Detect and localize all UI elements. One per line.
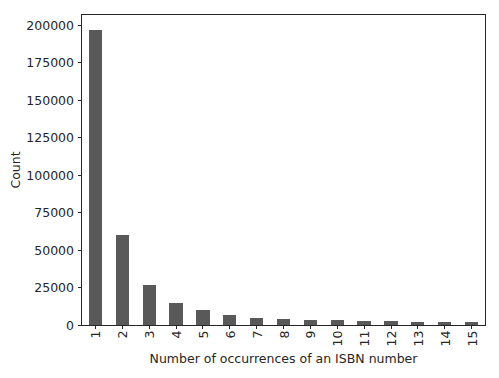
x-tick-label: 7 xyxy=(249,331,264,349)
bar-2 xyxy=(116,235,129,325)
x-tick-label: 10 xyxy=(330,331,345,349)
x-tick-mark xyxy=(256,325,257,329)
y-tick-label: 125000 xyxy=(0,130,74,145)
x-tick-label: 4 xyxy=(169,331,184,349)
y-tick-label: 25000 xyxy=(0,280,74,295)
y-tick-mark xyxy=(78,100,82,101)
y-tick-mark xyxy=(78,287,82,288)
x-tick-label: 12 xyxy=(384,331,399,349)
y-tick-label: 175000 xyxy=(0,55,74,70)
x-tick-mark xyxy=(337,325,338,329)
y-tick-mark xyxy=(78,325,82,326)
bar-4 xyxy=(169,303,182,325)
x-tick-mark xyxy=(149,325,150,329)
x-tick-mark xyxy=(229,325,230,329)
x-tick-label: 3 xyxy=(142,331,157,349)
x-tick-mark xyxy=(417,325,418,329)
x-axis-label: Number of occurrences of an ISBN number xyxy=(82,351,485,366)
x-tick-label: 5 xyxy=(195,331,210,349)
x-tick-label: 14 xyxy=(437,331,452,349)
y-tick-label: 0 xyxy=(0,318,74,333)
x-tick-label: 2 xyxy=(115,331,130,349)
y-tick-mark xyxy=(78,62,82,63)
x-tick-mark xyxy=(471,325,472,329)
bar-1 xyxy=(89,30,102,325)
plot-area xyxy=(81,14,486,326)
x-tick-mark xyxy=(122,325,123,329)
y-tick-label: 75000 xyxy=(0,205,74,220)
y-tick-mark xyxy=(78,250,82,251)
x-tick-label: 11 xyxy=(357,331,372,349)
x-tick-mark xyxy=(176,325,177,329)
y-axis-label: Count xyxy=(8,151,23,188)
y-tick-mark xyxy=(78,212,82,213)
y-tick-label: 200000 xyxy=(0,18,74,33)
y-tick-mark xyxy=(78,25,82,26)
bar-3 xyxy=(143,285,156,325)
y-tick-mark xyxy=(78,137,82,138)
y-tick-label: 150000 xyxy=(0,93,74,108)
x-tick-mark xyxy=(391,325,392,329)
x-tick-mark xyxy=(310,325,311,329)
x-tick-mark xyxy=(364,325,365,329)
x-tick-label: 6 xyxy=(222,331,237,349)
x-tick-mark xyxy=(202,325,203,329)
x-tick-label: 1 xyxy=(88,331,103,349)
x-tick-label: 15 xyxy=(464,331,479,349)
bar-5 xyxy=(196,310,209,325)
x-tick-label: 9 xyxy=(303,331,318,349)
x-tick-label: 8 xyxy=(276,331,291,349)
bar-7 xyxy=(250,318,263,326)
y-tick-mark xyxy=(78,175,82,176)
x-tick-label: 13 xyxy=(410,331,425,349)
x-tick-mark xyxy=(444,325,445,329)
x-tick-mark xyxy=(283,325,284,329)
figure: 0250005000075000100000125000150000175000… xyxy=(0,0,499,378)
x-tick-mark xyxy=(95,325,96,329)
bar-6 xyxy=(223,315,236,326)
y-tick-label: 50000 xyxy=(0,243,74,258)
